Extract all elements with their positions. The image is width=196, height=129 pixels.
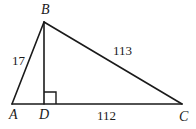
right-angle-marker-icon — [44, 92, 56, 104]
segment-bc — [44, 22, 182, 104]
vertex-label-c: C — [179, 110, 188, 124]
vertex-label-d: D — [39, 108, 49, 122]
measure-label-bc: 113 — [113, 44, 132, 57]
vertex-label-a: A — [9, 108, 18, 122]
vertex-label-b: B — [41, 3, 50, 17]
measure-label-ab: 17 — [12, 54, 25, 67]
geometry-diagram: A B C D 17 113 112 — [0, 0, 196, 129]
measure-label-dc: 112 — [97, 109, 116, 122]
